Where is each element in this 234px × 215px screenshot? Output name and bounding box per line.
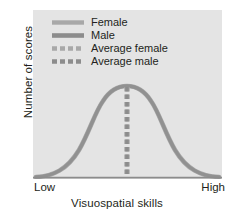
x-axis-tick-high: High	[201, 181, 225, 193]
legend-item-female: Female	[52, 16, 212, 28]
legend-swatch-average-female-dashed-line	[52, 43, 84, 54]
legend-swatch-male-solid-line	[52, 30, 84, 41]
legend-swatch-average-male-dashed-line	[52, 56, 84, 67]
visuospatial-skills-distribution-chart: Number of scores Female	[0, 0, 234, 215]
x-axis-label: Visuospatial skills	[0, 197, 234, 209]
legend-label-average-female: Average female	[91, 42, 168, 54]
legend-label-female: Female	[91, 16, 128, 28]
legend-item-male: Male	[52, 29, 212, 41]
legend-item-average-female: Average female	[52, 42, 212, 54]
legend-label-average-male: Average male	[91, 55, 159, 67]
legend-label-male: Male	[91, 29, 115, 41]
legend-item-average-male: Average male	[52, 55, 212, 67]
x-axis-tick-low: Low	[34, 181, 55, 193]
plot-area: Female Male Average female	[33, 10, 222, 179]
legend-swatch-female-solid-line	[52, 17, 84, 28]
chart-legend: Female Male Average female	[52, 16, 212, 68]
